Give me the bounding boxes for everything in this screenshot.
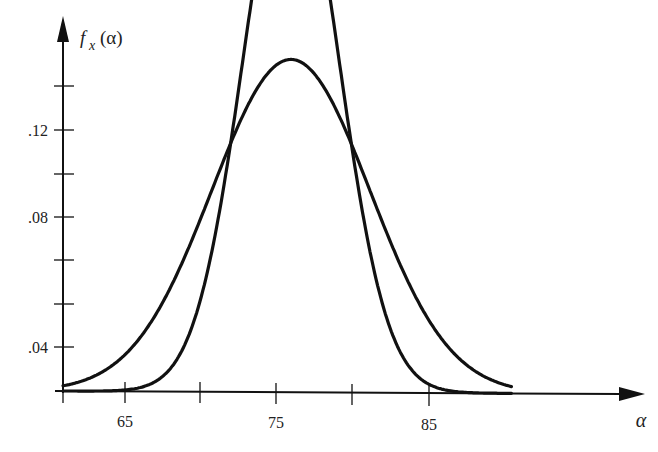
x-tick-label-85: 85	[421, 416, 437, 433]
y-tick-label-012: .12	[28, 122, 48, 139]
wide-density-curve	[63, 59, 511, 386]
x-tick-label-75: 75	[268, 414, 284, 431]
svg-text:(α): (α)	[100, 27, 123, 49]
svg-text:x: x	[88, 38, 96, 53]
x-ticks	[63, 382, 429, 406]
y-tick-label-008: .08	[28, 209, 48, 226]
y-axis-arrow-icon	[57, 16, 69, 42]
x-axis	[55, 391, 622, 394]
svg-text:f: f	[80, 27, 88, 48]
x-axis-title: α	[636, 409, 647, 431]
y-axis-title: f x (α)	[80, 27, 123, 53]
x-tick-label-65: 65	[117, 413, 133, 430]
y-tick-label-004: .04	[28, 339, 48, 356]
density-chart: .12 .08 .04 65 75 85 f x (α) α	[0, 0, 658, 452]
x-axis-arrow-icon	[619, 387, 645, 401]
